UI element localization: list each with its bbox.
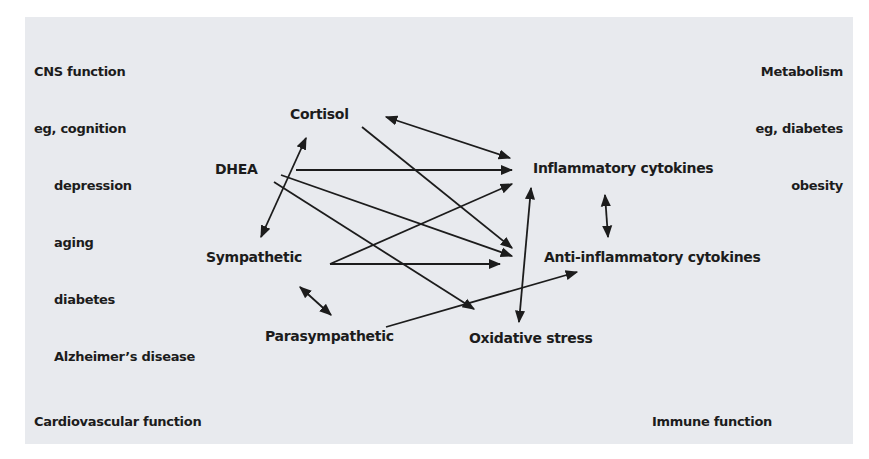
arrow-layer bbox=[0, 0, 869, 459]
node-dhea: DHEA bbox=[215, 161, 258, 177]
arrow-cortisol-inflammatory bbox=[386, 117, 510, 158]
arrow-inflammatory-anti bbox=[605, 195, 608, 237]
arrow-inflammatory-oxidative bbox=[519, 188, 531, 322]
arrow-sympathetic-parasympathetic bbox=[300, 287, 331, 315]
node-inflammatory-cytokines: Inflammatory cytokines bbox=[533, 160, 713, 176]
arrow-sympathetic-inflammatory bbox=[330, 184, 512, 264]
arrow-dhea-anti bbox=[281, 175, 512, 256]
node-oxidative-stress: Oxidative stress bbox=[469, 330, 592, 346]
node-parasympathetic: Parasympathetic bbox=[265, 328, 394, 344]
node-sympathetic: Sympathetic bbox=[206, 249, 302, 265]
arrow-parasympathetic-anti bbox=[386, 272, 577, 327]
node-cortisol: Cortisol bbox=[290, 106, 349, 122]
node-anti-inflammatory-cytokines: Anti-inflammatory cytokines bbox=[544, 249, 761, 265]
